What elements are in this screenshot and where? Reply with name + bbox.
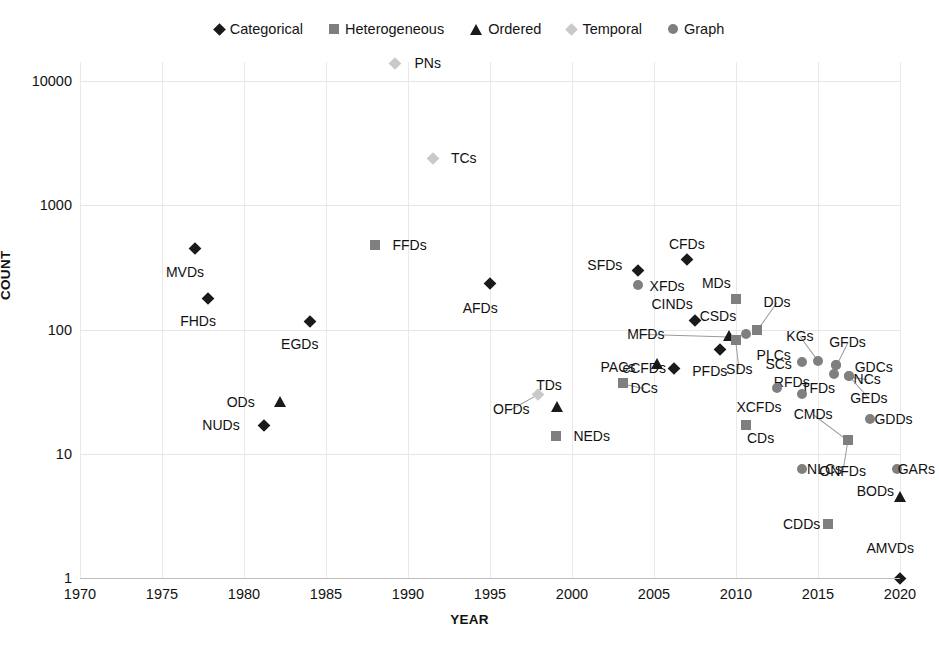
- data-point[interactable]: [370, 236, 380, 254]
- marker-diamond-icon: [303, 315, 316, 328]
- data-point-label: TDs: [536, 377, 562, 393]
- data-point-label: SFDs: [587, 257, 622, 273]
- legend-label: Graph: [684, 21, 724, 37]
- data-point[interactable]: [894, 488, 906, 506]
- marker-square-icon: [329, 24, 339, 34]
- gridline-horizontal: [80, 454, 900, 455]
- marker-circle-icon: [772, 383, 782, 393]
- x-tick-label: 2000: [556, 586, 588, 602]
- data-point[interactable]: [731, 331, 741, 349]
- marker-circle-icon: [741, 329, 751, 339]
- data-point-label: NLCs: [807, 461, 842, 477]
- x-tick-label: 1985: [310, 586, 342, 602]
- y-tick-label: 100: [6, 322, 72, 338]
- marker-diamond-icon: [484, 278, 497, 291]
- marker-square-icon: [731, 335, 741, 345]
- data-point-label: FHDs: [180, 313, 216, 329]
- data-point[interactable]: [843, 431, 853, 449]
- marker-square-icon: [551, 431, 561, 441]
- gridline-vertical: [572, 62, 573, 578]
- data-point-label: CMDs: [794, 406, 833, 422]
- data-point-label: SCs: [765, 356, 791, 372]
- data-point[interactable]: [797, 353, 807, 371]
- x-tick-label: 1970: [64, 586, 96, 602]
- marker-square-icon: [731, 294, 741, 304]
- marker-diamond-icon: [188, 242, 201, 255]
- gridline-vertical: [326, 62, 327, 578]
- data-point[interactable]: [551, 427, 561, 445]
- data-point-label: CINDs: [651, 296, 692, 312]
- data-point[interactable]: [259, 416, 268, 434]
- marker-square-icon: [370, 240, 380, 250]
- data-point[interactable]: [203, 289, 212, 307]
- data-point[interactable]: [618, 374, 628, 392]
- legend-item-graph[interactable]: Graph: [668, 21, 724, 37]
- data-point[interactable]: [797, 460, 807, 478]
- data-point[interactable]: [731, 290, 741, 308]
- y-tick-label: 10000: [6, 73, 72, 89]
- legend-item-temporal[interactable]: Temporal: [567, 21, 642, 37]
- legend-item-ordered[interactable]: Ordered: [470, 21, 541, 37]
- data-point[interactable]: [741, 325, 751, 343]
- legend-label: Temporal: [582, 21, 642, 37]
- data-point-label: GFDs: [829, 334, 866, 350]
- data-point[interactable]: [669, 359, 678, 377]
- marker-diamond-icon: [213, 23, 226, 36]
- x-tick-label: 1990: [392, 586, 424, 602]
- data-point[interactable]: [305, 312, 314, 330]
- marker-circle-icon: [844, 371, 854, 381]
- y-tick-label: 10: [6, 446, 72, 462]
- gridline-vertical: [818, 62, 819, 578]
- gridline-horizontal: [80, 330, 900, 331]
- data-point[interactable]: [691, 311, 700, 329]
- y-tick-label: 1: [6, 570, 72, 586]
- x-tick-label: 2020: [884, 586, 916, 602]
- marker-triangle-icon: [470, 24, 482, 35]
- data-point-label: MFDs: [627, 326, 664, 342]
- legend-label: Categorical: [230, 21, 303, 37]
- legend-label: Heterogeneous: [345, 21, 444, 37]
- marker-circle-icon: [829, 369, 839, 379]
- marker-square-icon: [843, 435, 853, 445]
- data-point-label: NUDs: [202, 417, 239, 433]
- marker-diamond-icon: [202, 292, 215, 305]
- data-point[interactable]: [823, 515, 833, 533]
- legend-item-heterogeneous[interactable]: Heterogeneous: [329, 21, 444, 37]
- plot-area: MVDsFHDsEGDsODsNUDsFFDsPNsTCsAFDsOFDsTDs…: [80, 62, 900, 578]
- x-tick-label: 2015: [802, 586, 834, 602]
- legend-item-categorical[interactable]: Categorical: [215, 21, 303, 37]
- gridline-vertical: [244, 62, 245, 578]
- data-point[interactable]: [390, 54, 399, 72]
- data-point-label: OFDs: [493, 401, 530, 417]
- gridline-vertical: [162, 62, 163, 578]
- marker-diamond-icon: [680, 253, 693, 266]
- data-point-label: GARs: [898, 461, 935, 477]
- data-point[interactable]: [633, 276, 643, 294]
- data-point[interactable]: [682, 250, 691, 268]
- data-point[interactable]: [190, 239, 199, 257]
- data-point[interactable]: [752, 321, 762, 339]
- marker-diamond-icon: [566, 23, 579, 36]
- chart-canvas: CategoricalHeterogeneousOrderedTemporalG…: [0, 0, 939, 666]
- marker-square-icon: [752, 325, 762, 335]
- data-point[interactable]: [274, 393, 286, 411]
- data-point[interactable]: [428, 149, 437, 167]
- x-tick-label: 2010: [720, 586, 752, 602]
- x-tick-label: 2005: [638, 586, 670, 602]
- data-point-label: PNs: [414, 55, 440, 71]
- x-tick-label: 1980: [228, 586, 260, 602]
- data-point[interactable]: [844, 367, 854, 385]
- y-tick-label: 1000: [6, 197, 72, 213]
- data-point-label: CSDs: [700, 308, 737, 324]
- data-point[interactable]: [551, 398, 563, 416]
- data-point[interactable]: [772, 379, 782, 397]
- marker-triangle-icon: [894, 491, 906, 502]
- gridline-vertical: [654, 62, 655, 578]
- marker-triangle-icon: [274, 396, 286, 407]
- x-tick-label: 1995: [474, 586, 506, 602]
- gridline-vertical: [80, 62, 81, 578]
- data-point[interactable]: [486, 274, 495, 292]
- data-point[interactable]: [813, 352, 823, 370]
- data-point-label: TCs: [451, 150, 477, 166]
- marker-square-icon: [618, 378, 628, 388]
